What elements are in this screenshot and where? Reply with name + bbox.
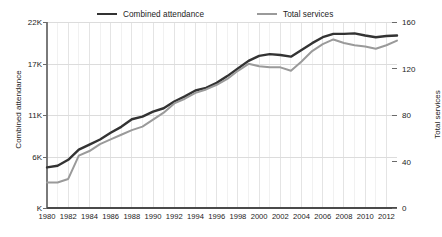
x-axis-tick-label: 1988: [123, 212, 140, 221]
plot-area: [0, 0, 442, 237]
x-axis-tick-label: 2006: [314, 212, 331, 221]
x-axis-tick-label: 1994: [187, 212, 204, 221]
gridlines: [47, 22, 397, 208]
x-axis-tick-label: 1996: [208, 212, 225, 221]
x-axis-tick-label: 1998: [229, 212, 246, 221]
x-axis-tick-label: 1980: [39, 212, 56, 221]
y-axis-left-ticks: 22K17K11K6KK: [0, 0, 46, 237]
y-axis-left-tick-label: 11K: [2, 111, 46, 120]
series-line-combined-attendance: [47, 33, 397, 167]
x-axis-tick-label: 2012: [378, 212, 395, 221]
y-axis-right-tick-label: 160: [398, 18, 438, 27]
x-axis-tick-label: 2004: [293, 212, 310, 221]
y-axis-left-tick-label: 6K: [2, 153, 46, 162]
y-axis-left-tick-label: 22K: [2, 18, 46, 27]
x-axis-tick-label: 2000: [251, 212, 268, 221]
x-axis-tick-label: 2008: [336, 212, 353, 221]
x-axis-tick-label: 2002: [272, 212, 289, 221]
x-axis-tick-label: 1982: [60, 212, 77, 221]
x-axis-tick-label: 2010: [357, 212, 374, 221]
chart-container: Combined attendance Total services 22K17…: [0, 0, 442, 237]
series-line-total-services: [47, 39, 397, 182]
y-axis-left-tick-label: 17K: [2, 60, 46, 69]
y-axis-left-title: Combined attendance: [14, 55, 23, 165]
data-series: [47, 33, 397, 182]
x-axis-tick-label: 1984: [81, 212, 98, 221]
y-axis-right-title: Total services: [433, 60, 442, 170]
x-axis-tick-label: 1992: [166, 212, 183, 221]
x-axis-tick-label: 1990: [145, 212, 162, 221]
x-axis-ticks: 1980198219841986198819901992199419961998…: [0, 210, 442, 230]
x-axis-tick-label: 1986: [102, 212, 119, 221]
